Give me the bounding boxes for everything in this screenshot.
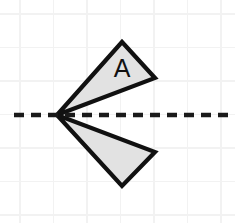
geometry-figure-svg: A (0, 0, 235, 223)
canvas-background (0, 0, 235, 223)
triangle-a-label: A (114, 54, 131, 82)
geometry-figure-canvas: A (0, 0, 235, 223)
shape-labels-group: A (114, 54, 131, 82)
